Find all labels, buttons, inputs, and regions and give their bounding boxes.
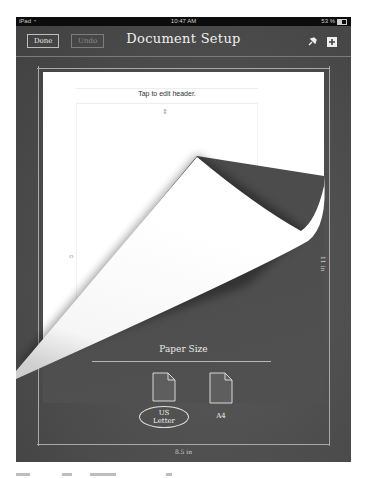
document-icon [209, 372, 233, 404]
status-time: 10:47 AM [16, 17, 351, 26]
page-title: Document Setup [16, 31, 351, 46]
width-label: 8.5 in [16, 448, 351, 455]
chalkboard: Done Undo Document Setup Tap to edit hea… [16, 26, 351, 462]
guide-left [38, 66, 39, 446]
paper-size-divider [92, 361, 271, 362]
add-icon[interactable] [326, 34, 338, 46]
paper-option-a4[interactable]: A4 [196, 372, 246, 422]
header-field[interactable]: Tap to edit header. [76, 88, 258, 104]
ipad-screen: iPad ◔ 10:47 AM 53 % Done Undo Document … [16, 17, 351, 462]
horizontal-resize-icon[interactable]: ‹› [69, 253, 74, 260]
document-icon [152, 372, 176, 402]
cropped-caption [16, 470, 186, 478]
guide-bottom [37, 444, 329, 445]
status-right: 53 % [321, 17, 347, 26]
battery-percent: 53 % [321, 17, 335, 26]
vertical-resize-icon[interactable]: ⇕ [162, 109, 168, 115]
header-placeholder: Tap to edit header. [76, 90, 258, 97]
margin-right [257, 102, 258, 402]
status-bar: iPad ◔ 10:47 AM 53 % [16, 17, 351, 26]
battery-icon [337, 19, 347, 25]
guide-top [37, 68, 329, 69]
paper-size-title: Paper Size [16, 344, 351, 354]
pin-icon[interactable] [306, 34, 318, 46]
toolbar: Done Undo Document Setup [16, 26, 351, 57]
paper-option-us-letter[interactable]: US Letter [139, 372, 189, 428]
height-label: 11 in [320, 256, 327, 271]
us-letter-label: US Letter [139, 406, 189, 428]
guide-right [329, 66, 330, 446]
margin-left [76, 102, 77, 402]
a4-label: A4 [209, 410, 233, 422]
